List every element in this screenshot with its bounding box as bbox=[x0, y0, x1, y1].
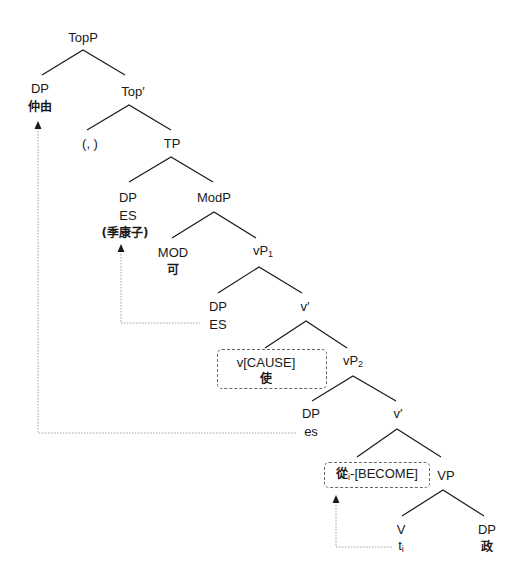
word-shi: 使 bbox=[260, 372, 272, 387]
vp2-label: vP bbox=[343, 353, 358, 368]
node-dp-spec-tp: DP bbox=[119, 190, 137, 205]
node-dp-object: DP bbox=[478, 522, 496, 537]
word-cong: 從 bbox=[336, 467, 348, 481]
word-jikangzi: (季康子) bbox=[102, 226, 149, 241]
vp1-label: vP bbox=[253, 243, 268, 258]
node-es-spec-tp: ES bbox=[119, 208, 136, 223]
vp1-subscript: 1 bbox=[268, 249, 273, 259]
node-modp: ModP bbox=[197, 190, 231, 205]
vp2-subscript: 2 bbox=[358, 359, 363, 369]
word-zhongyou: 仲由 bbox=[28, 100, 52, 115]
arrowhead-icon bbox=[333, 495, 340, 503]
node-vp1: vP1 bbox=[253, 243, 273, 262]
trace-index: i bbox=[402, 544, 404, 554]
node-mod: MOD bbox=[158, 245, 188, 260]
node-dp-spec-vp1: DP bbox=[209, 299, 227, 314]
node-comma: (, ) bbox=[82, 136, 98, 151]
word-zheng: 政 bbox=[481, 540, 493, 555]
tree-branches bbox=[0, 0, 522, 585]
node-top-bar: Top′ bbox=[121, 84, 144, 99]
arrowhead-icon bbox=[35, 121, 42, 129]
node-dp-topic: DP bbox=[31, 81, 49, 96]
node-v-cause: v[CAUSE] bbox=[237, 355, 296, 370]
node-es-spec-vp2: es bbox=[304, 424, 318, 439]
node-topp: TopP bbox=[68, 30, 98, 45]
node-tp: TP bbox=[164, 136, 181, 151]
node-dp-spec-vp2: DP bbox=[302, 406, 320, 421]
arrowhead-icon bbox=[118, 244, 125, 252]
node-v-become: 從i-[BECOME] bbox=[336, 466, 418, 485]
node-v: V bbox=[397, 522, 406, 537]
node-trace: ti bbox=[398, 538, 404, 557]
node-vp: VP bbox=[437, 468, 454, 483]
node-v-bar-1: v′ bbox=[301, 299, 310, 314]
node-v-bar-2: v′ bbox=[394, 406, 403, 421]
node-vp2: vP2 bbox=[343, 353, 363, 372]
word-ke: 可 bbox=[167, 263, 179, 278]
become-feature: -[BECOME] bbox=[350, 466, 418, 481]
node-es-spec-vp1: ES bbox=[209, 317, 226, 332]
